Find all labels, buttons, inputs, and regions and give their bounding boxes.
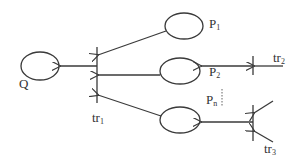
place-p2 bbox=[160, 58, 200, 84]
edge-pn-tr1 bbox=[98, 95, 161, 116]
label-tr2: tr2 bbox=[273, 51, 285, 66]
edge-p1-tr1 bbox=[98, 31, 166, 55]
label-p1: P1 bbox=[209, 17, 220, 32]
label-tr3: tr3 bbox=[264, 142, 276, 157]
place-pn bbox=[160, 107, 200, 133]
label-tr1: tr1 bbox=[92, 111, 104, 126]
label-p2: P2 bbox=[209, 65, 220, 80]
label-pn: Pn bbox=[206, 93, 217, 108]
label-q: Q bbox=[19, 77, 28, 90]
diagram-canvas bbox=[0, 0, 302, 164]
place-p1 bbox=[165, 13, 203, 39]
edge-tr3-in-upper bbox=[254, 101, 273, 113]
